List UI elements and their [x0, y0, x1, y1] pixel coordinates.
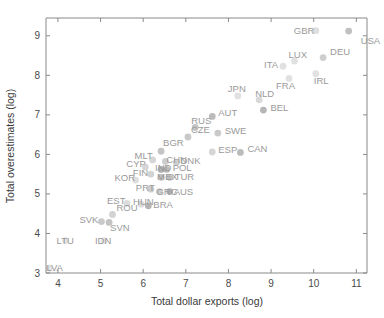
plot-canvas: 45678910113456789 USAGBRDEULUXITAIRLFRAN…	[0, 0, 384, 318]
data-point-marker	[345, 28, 352, 35]
data-point-label: AUT	[218, 107, 237, 118]
data-point-label: BRA	[153, 199, 173, 210]
x-tick-label: 7	[183, 278, 189, 289]
data-point-label: LUX	[289, 49, 308, 60]
data-point-label: PRT	[136, 182, 155, 193]
data-point-label: BEL	[270, 102, 288, 113]
data-point-label: NLD	[255, 88, 274, 99]
x-axis-title: Total dollar exports (log)	[151, 295, 263, 307]
data-point-marker	[280, 63, 287, 70]
data-point-label: CZE	[191, 124, 210, 135]
y-tick-label: 3	[34, 268, 40, 279]
x-tick-label: 4	[55, 278, 61, 289]
data-point-marker	[320, 54, 327, 61]
data-point-label: BGR	[163, 137, 184, 148]
data-point-label: CAN	[247, 143, 267, 154]
data-point-label: SWE	[225, 125, 247, 136]
data-point-label: IDN	[95, 235, 112, 246]
data-point-marker	[237, 149, 244, 156]
data-point-label: ITA	[264, 59, 279, 70]
data-point-label: SVN	[110, 222, 130, 233]
data-point-marker	[147, 171, 154, 178]
y-tick-label: 9	[34, 30, 40, 41]
data-point-label: SVK	[79, 214, 99, 225]
y-axis-title: Total overestimates (log)	[4, 89, 16, 203]
data-point-marker	[209, 149, 216, 156]
data-point-label: ROU	[117, 202, 138, 213]
data-point-label: LVA	[46, 262, 63, 273]
data-point-label: DEU	[330, 46, 350, 57]
data-point-marker	[214, 130, 221, 137]
data-point-label: FRA	[276, 80, 296, 91]
x-tick-label: 9	[268, 278, 274, 289]
y-tick-label: 6	[34, 149, 40, 160]
y-tick-label: 7	[34, 109, 40, 120]
data-point-marker	[98, 218, 105, 225]
data-point-label: KOR	[115, 172, 136, 183]
data-point-marker	[260, 107, 267, 114]
data-point-label: TUR	[175, 171, 195, 182]
x-tick-label: 11	[351, 278, 362, 289]
data-point-marker	[109, 211, 116, 218]
data-point-marker	[158, 148, 165, 155]
data-point-label: IRL	[314, 75, 329, 86]
ticks-group: 45678910113456789	[34, 18, 367, 289]
x-tick-label: 8	[226, 278, 232, 289]
data-points-group	[46, 27, 352, 271]
data-point-label: JPN	[228, 83, 246, 94]
data-point-label: AUS	[174, 186, 194, 197]
x-tick-label: 6	[140, 278, 146, 289]
x-tick-label: 10	[308, 278, 320, 289]
scatter-plot-figure: 45678910113456789 USAGBRDEULUXITAIRLFRAN…	[0, 0, 384, 318]
data-point-label: LTU	[57, 235, 74, 246]
data-point-label: GBR	[294, 25, 315, 36]
data-point-label: FIN	[133, 167, 148, 178]
y-tick-label: 5	[34, 188, 40, 199]
y-tick-label: 4	[34, 228, 40, 239]
x-tick-label: 5	[98, 278, 104, 289]
data-point-label: USA	[361, 35, 381, 46]
data-point-label: ESP	[218, 144, 237, 155]
y-tick-label: 8	[34, 70, 40, 81]
